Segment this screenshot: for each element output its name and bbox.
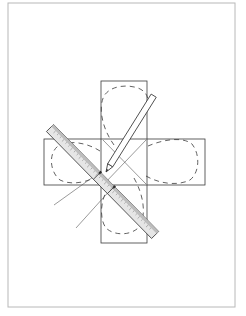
cross-template-diagram — [0, 0, 246, 316]
diagram-stage — [0, 0, 246, 316]
page-frame — [8, 3, 235, 307]
